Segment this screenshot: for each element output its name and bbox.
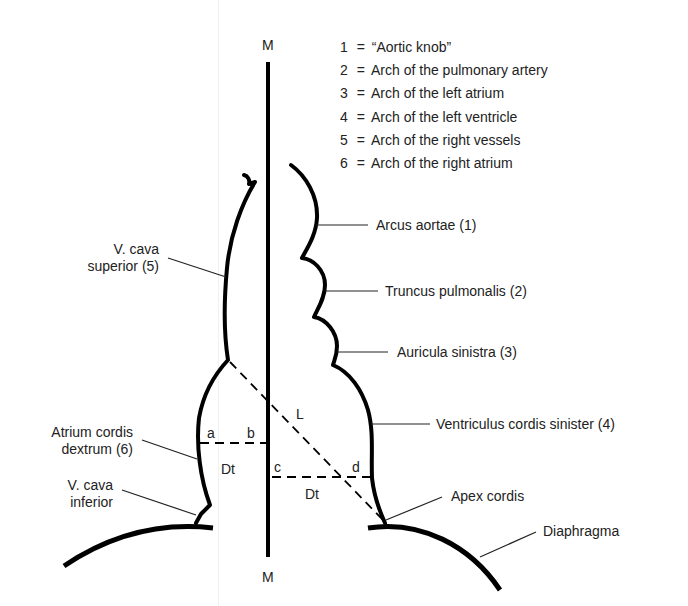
- legend-text: Arch of the left atrium: [371, 85, 504, 101]
- diaphragm-right: [368, 527, 500, 590]
- midline-label-top: M: [262, 37, 274, 53]
- legend-text: “Aortic knob”: [372, 39, 451, 55]
- label-arcus-aortae: Arcus aortae (1): [376, 217, 476, 234]
- legend-item: 2 = Arch of the pulmonary artery: [340, 59, 548, 82]
- label-ventriculus: Ventriculus cordis sinister (4): [436, 416, 615, 433]
- point-a-label: a: [207, 425, 215, 441]
- label-atrium-line1: Atrium cordis: [20, 424, 133, 441]
- leader-vci: [122, 490, 196, 515]
- label-auricula-sinistra: Auricula sinistra (3): [397, 344, 517, 361]
- label-atrium-line2: dextrum (6): [20, 441, 133, 458]
- label-truncus-pulmonalis: Truncus pulmonalis (2): [385, 283, 527, 300]
- legend-text: Arch of the right vessels: [371, 132, 520, 148]
- leader-vcs: [168, 258, 226, 277]
- legend-text: Arch of the left ventricle: [371, 109, 517, 125]
- legend-number: 2: [340, 59, 350, 82]
- legend-item: 6 = Arch of the right atrium: [340, 152, 548, 175]
- label-vcs-line1: V. cava: [66, 241, 159, 258]
- leader-apex-cordis: [386, 497, 442, 520]
- left-heart-border: [291, 165, 385, 523]
- legend-text: Arch of the pulmonary artery: [371, 62, 548, 78]
- legend-number: 4: [340, 106, 350, 129]
- legend-item: 1 = “Aortic knob”: [340, 36, 548, 59]
- label-vci-line2: inferior: [40, 494, 113, 511]
- label-apex-cordis: Apex cordis: [451, 488, 524, 505]
- dt-right-label: Dt: [305, 486, 319, 502]
- legend-equals: =: [354, 106, 368, 129]
- label-vena-cava-superior: V. cava superior (5): [66, 241, 159, 275]
- legend-equals: =: [354, 59, 368, 82]
- label-vci-line1: V. cava: [40, 477, 113, 494]
- legend-equals: =: [354, 152, 368, 175]
- legend-item: 5 = Arch of the right vessels: [340, 129, 548, 152]
- legend-number: 6: [340, 152, 350, 175]
- legend-equals: =: [354, 82, 368, 105]
- legend-number: 5: [340, 129, 350, 152]
- point-c-label: c: [274, 459, 281, 475]
- legend-item: 3 = Arch of the left atrium: [340, 82, 548, 105]
- leader-atrium-dextrum: [142, 440, 197, 459]
- legend-number: 3: [340, 82, 350, 105]
- legend-number: 1: [340, 36, 350, 59]
- label-vcs-line2: superior (5): [66, 258, 159, 275]
- diaphragm-left: [64, 527, 213, 566]
- legend-equals: =: [354, 36, 368, 59]
- heart-diagram: M M 1 = “Aortic knob” 2 = Arch of the pu…: [0, 0, 688, 606]
- dt-left-label: Dt: [221, 461, 235, 477]
- midline-label-bottom: M: [262, 569, 274, 585]
- leader-diaphragma: [480, 532, 536, 557]
- label-atrium-cordis-dextrum: Atrium cordis dextrum (6): [20, 424, 133, 458]
- long-axis-L-label: L: [296, 406, 304, 422]
- legend-text: Arch of the right atrium: [371, 155, 513, 171]
- point-d-label: d: [352, 459, 360, 475]
- label-vena-cava-inferior: V. cava inferior: [40, 477, 113, 511]
- point-b-label: b: [247, 425, 255, 441]
- label-diaphragma: Diaphragma: [543, 523, 619, 540]
- legend-equals: =: [354, 129, 368, 152]
- legend-item: 4 = Arch of the left ventricle: [340, 106, 548, 129]
- legend: 1 = “Aortic knob” 2 = Arch of the pulmon…: [340, 36, 548, 175]
